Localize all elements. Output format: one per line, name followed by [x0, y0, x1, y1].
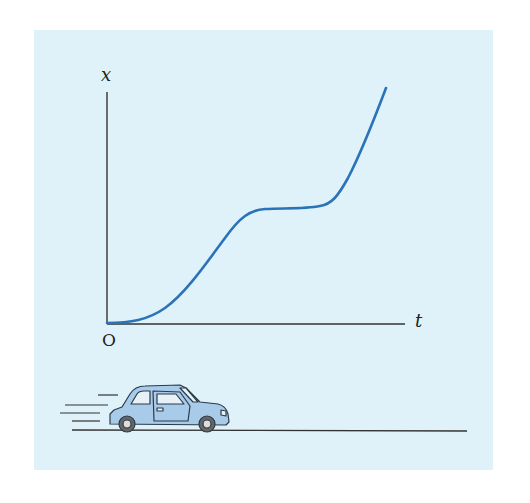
car-icon	[110, 385, 229, 432]
position-time-graph	[0, 0, 530, 503]
position-curve	[107, 88, 386, 323]
origin-label: O	[102, 330, 116, 350]
speed-lines-icon	[60, 395, 118, 421]
y-axis-label: x	[101, 64, 111, 85]
x-axis-label: t	[415, 310, 422, 331]
